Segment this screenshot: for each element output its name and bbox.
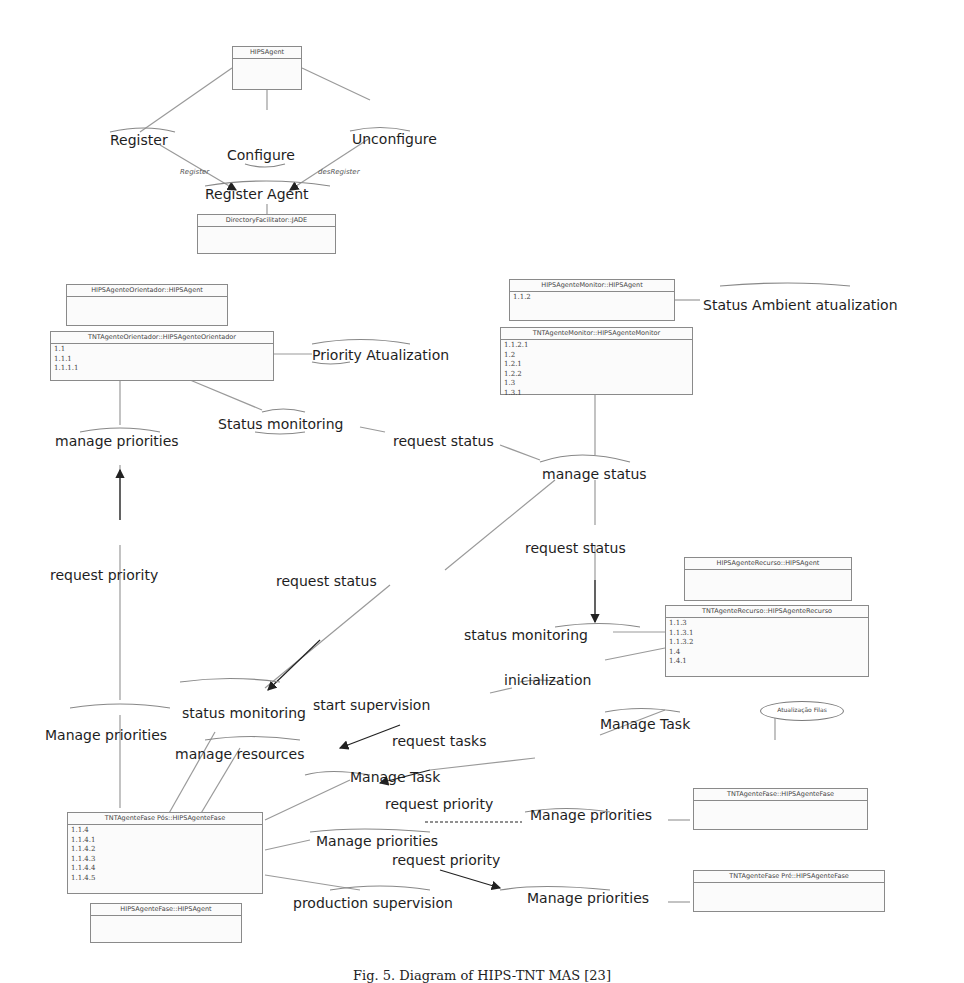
label-inicialization: inicialization	[504, 672, 591, 688]
class-box-hips-agent[interactable]: HIPSAgent	[232, 46, 302, 90]
label-manage-priorities-mid: Manage priorities	[316, 833, 438, 849]
class-item: 1.1.4.4	[71, 864, 259, 874]
diagram-canvas: HIPSAgent DirectoryFacilitator::JADE HIP…	[0, 0, 964, 983]
label-status-monitoring-top: Status monitoring	[218, 416, 344, 432]
class-item: 1.1	[54, 345, 270, 355]
class-item: 1.1.4.1	[71, 836, 259, 846]
class-title: TNTAgenteFase::HIPSAgenteFase	[694, 789, 867, 801]
class-title: HIPSAgenteOrientador::HIPSAgent	[67, 285, 227, 297]
class-items: 1.1.4 1.1.4.1 1.1.4.2 1.1.4.3 1.1.4.4 1.…	[68, 825, 262, 884]
class-title: DirectoryFacilitator::JADE	[198, 215, 335, 227]
class-item: 1.1.1.1	[54, 364, 270, 374]
class-item: 1.3.1	[504, 389, 689, 399]
class-title: HIPSAgenteMonitor::HIPSAgent	[510, 280, 674, 292]
label-manage-priorities-r2: Manage priorities	[527, 890, 649, 906]
label-request-priority-1: request priority	[385, 796, 493, 812]
usecase-atualizacao-filas[interactable]: Atualização Filas	[760, 701, 844, 721]
label-request-priority-left: request priority	[50, 567, 158, 583]
class-box-fase-pre[interactable]: TNTAgenteFase Pré::HIPSAgenteFase	[693, 870, 885, 912]
class-item: 1.2.2	[504, 370, 689, 380]
figure-caption: Fig. 5. Diagram of HIPS-TNT MAS [23]	[0, 968, 964, 983]
label-request-status-top: request status	[393, 433, 494, 449]
label-request-tasks: request tasks	[392, 733, 486, 749]
label-configure: Configure	[227, 147, 295, 163]
label-status-ambient-atualization: Status Ambient atualization	[703, 297, 898, 313]
class-box-orientador-base[interactable]: HIPSAgenteOrientador::HIPSAgent	[66, 284, 228, 326]
class-box-monitor-base[interactable]: HIPSAgenteMonitor::HIPSAgent 1.1.2	[509, 279, 675, 321]
class-items: 1.1.2	[510, 292, 674, 304]
class-item: 1.1.3.1	[669, 629, 865, 639]
class-item: 1.1.3.2	[669, 638, 865, 648]
label-status-monitoring-right: status monitoring	[464, 627, 588, 643]
class-item: 1.3	[504, 379, 689, 389]
class-item: 1.1.4.3	[71, 855, 259, 865]
class-item: 1.4	[669, 648, 865, 658]
class-item: 1.1.4	[71, 826, 259, 836]
label-priority-atualization: Priority Atualization	[312, 347, 449, 363]
class-box-recurso-tnt[interactable]: TNTAgenteRecurso::HIPSAgenteRecurso 1.1.…	[665, 605, 869, 677]
class-title: TNTAgenteOrientador::HIPSAgenteOrientado…	[51, 332, 273, 344]
class-title: TNTAgenteFase Pré::HIPSAgenteFase	[694, 871, 884, 883]
class-items: 1.1.2.1 1.2 1.2.1 1.2.2 1.3 1.3.1	[501, 340, 692, 399]
class-item: 1.1.3	[669, 619, 865, 629]
label-status-monitoring-left: status monitoring	[182, 705, 306, 721]
label-manage-priorities-r1: Manage priorities	[530, 807, 652, 823]
class-title: HIPSAgenteFase::HIPSAgent	[91, 904, 241, 916]
label-register-small: Register	[180, 164, 209, 180]
label-request-status-diag: request status	[276, 573, 377, 589]
label-register-agent: Register Agent	[205, 186, 309, 202]
class-title: TNTAgenteFase Pós::HIPSAgenteFase	[68, 813, 262, 825]
class-box-directory-facilitator[interactable]: DirectoryFacilitator::JADE	[197, 214, 336, 254]
class-box-recurso-base[interactable]: HIPSAgenteRecurso::HIPSAgent	[684, 557, 852, 601]
label-request-priority-2: request priority	[392, 852, 500, 868]
class-item: 1.4.1	[669, 657, 865, 667]
label-request-status-mid: request status	[525, 540, 626, 556]
class-box-fase-pos[interactable]: TNTAgenteFase Pós::HIPSAgenteFase 1.1.4 …	[67, 812, 263, 894]
class-item: 1.2	[504, 351, 689, 361]
label-manage-priorities-top: manage priorities	[55, 433, 179, 449]
class-title: HIPSAgent	[233, 47, 301, 59]
label-unconfigure: Unconfigure	[352, 131, 437, 147]
class-items: 1.1.3 1.1.3.1 1.1.3.2 1.4 1.4.1	[666, 618, 868, 668]
class-items: 1.1 1.1.1 1.1.1.1	[51, 344, 273, 375]
label-desregister-small: desRegister	[318, 164, 360, 180]
class-item: 1.1.2	[513, 293, 671, 303]
class-title: TNTAgenteRecurso::HIPSAgenteRecurso	[666, 606, 868, 618]
label-manage-status: manage status	[542, 466, 647, 482]
class-item: 1.1.4.5	[71, 874, 259, 884]
label-production-supervision: production supervision	[293, 895, 453, 911]
class-box-fase-base[interactable]: HIPSAgenteFase::HIPSAgent	[90, 903, 242, 943]
label-register: Register	[110, 132, 168, 148]
label-start-supervision: start supervision	[313, 697, 430, 713]
class-item: 1.1.4.2	[71, 845, 259, 855]
label-manage-task-right: Manage Task	[600, 716, 690, 732]
class-box-fase-tnt[interactable]: TNTAgenteFase::HIPSAgenteFase	[693, 788, 868, 830]
class-title: HIPSAgenteRecurso::HIPSAgent	[685, 558, 851, 570]
label-manage-resources: manage resources	[175, 746, 304, 762]
label-manage-priorities-left: Manage priorities	[45, 727, 167, 743]
class-item: 1.1.1	[54, 355, 270, 365]
class-item: 1.2.1	[504, 360, 689, 370]
class-item: 1.1.2.1	[504, 341, 689, 351]
usecase-label: Atualização Filas	[777, 706, 827, 713]
class-box-monitor-tnt[interactable]: TNTAgenteMonitor::HIPSAgenteMonitor 1.1.…	[500, 327, 693, 395]
label-manage-task-left: Manage Task	[350, 769, 440, 785]
class-title: TNTAgenteMonitor::HIPSAgenteMonitor	[501, 328, 692, 340]
class-box-orientador-tnt[interactable]: TNTAgenteOrientador::HIPSAgenteOrientado…	[50, 331, 274, 381]
